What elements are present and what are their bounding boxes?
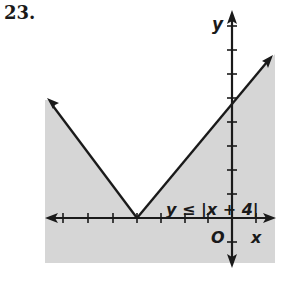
x-axis-label: x [250,228,262,247]
inequality-graph: y O x y ≤ |x + 4| [0,0,284,282]
inequality-label: y ≤ |x + 4| [166,200,259,220]
y-axis-label: y [212,14,224,34]
shaded-solution-region [45,54,275,263]
origin-label: O [211,228,225,247]
